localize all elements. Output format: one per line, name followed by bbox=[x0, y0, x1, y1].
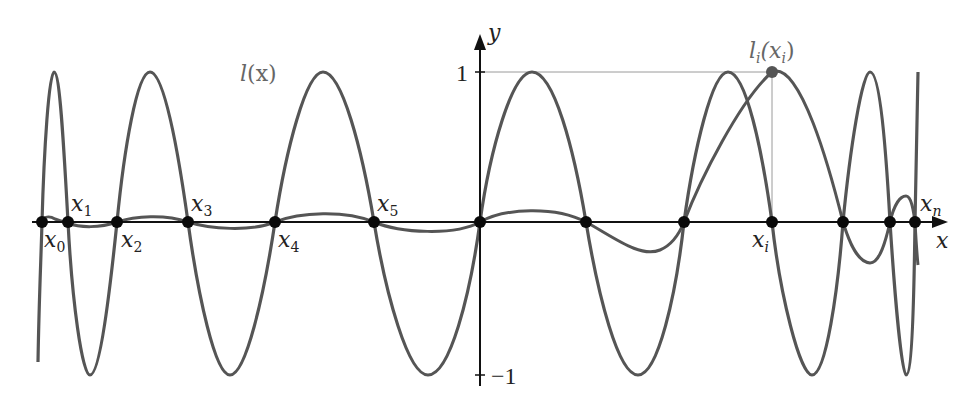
node-dot bbox=[474, 216, 486, 228]
y-axis-label: y bbox=[487, 20, 501, 45]
lagrange-diagram: y x 1 −1 l(x) li(xi) x0 x1 x2 x3 x4 x5 x… bbox=[0, 0, 975, 405]
node-dot bbox=[766, 216, 778, 228]
y-axis-arrow-icon bbox=[474, 34, 486, 50]
x-axis-label: x bbox=[936, 228, 949, 253]
y-tick-label-minus1: −1 bbox=[491, 363, 517, 389]
node-dot bbox=[62, 216, 74, 228]
curve-label-li-xi: li(xi) bbox=[749, 38, 795, 66]
node-label-x4: x4 bbox=[278, 227, 299, 255]
highlight-point-li-xi bbox=[766, 66, 778, 78]
node-dot bbox=[909, 216, 921, 228]
node-label-x0: x0 bbox=[44, 227, 65, 255]
node-label-x1: x1 bbox=[71, 191, 92, 219]
node-dot bbox=[368, 216, 380, 228]
node-dot bbox=[580, 216, 592, 228]
curve-label-l-x: l(x) bbox=[240, 61, 277, 86]
node-label-x3: x3 bbox=[191, 191, 212, 219]
node-label-xn: xn bbox=[920, 191, 941, 219]
node-dot bbox=[678, 216, 690, 228]
node-label-x5: x5 bbox=[377, 191, 398, 219]
node-dot bbox=[884, 216, 896, 228]
node-dot bbox=[182, 216, 194, 228]
node-label-xi: xi bbox=[752, 227, 769, 255]
node-label-x2: x2 bbox=[121, 227, 142, 255]
y-tick-label-1: 1 bbox=[456, 60, 468, 86]
node-dot bbox=[837, 216, 849, 228]
